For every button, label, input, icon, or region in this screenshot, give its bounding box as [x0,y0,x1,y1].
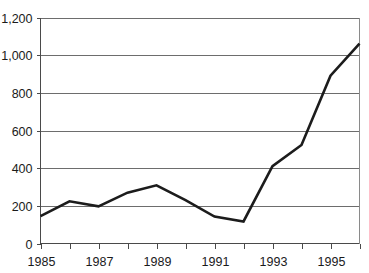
line-chart: 02004006008001,0001,200 1985198719891991… [0,0,369,273]
y-axis-tick-label: 600 [12,125,33,139]
chart-canvas: 02004006008001,0001,200 1985198719891991… [0,0,369,273]
y-axis-tick-label: 0 [26,238,33,252]
x-axis-tick-label: 1993 [260,255,288,269]
x-axis-tick-label: 1989 [144,255,172,269]
y-axis-tick-label: 400 [12,162,33,176]
y-axis-tick-label: 1,000 [1,49,32,63]
y-axis-tick-label: 1,200 [1,12,32,26]
chart-background [0,0,369,273]
y-axis-tick-label: 200 [12,200,33,214]
x-axis-tick-label: 1991 [202,255,230,269]
y-axis-tick-label: 800 [12,87,33,101]
x-axis-tick-label: 1995 [318,255,346,269]
x-axis-tick-label: 1985 [28,255,56,269]
x-axis-tick-label: 1987 [86,255,114,269]
